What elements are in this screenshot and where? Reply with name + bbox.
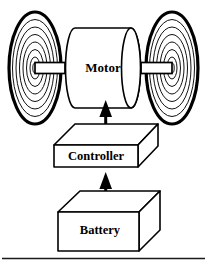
axle-left <box>35 63 65 74</box>
controller-label: Controller <box>68 149 124 163</box>
drivetrain-diagram: Motor Controller <box>0 0 207 264</box>
motor-label: Motor <box>85 60 121 75</box>
arrow-battery-to-controller-head <box>99 172 112 189</box>
motor-end-cap <box>122 28 141 108</box>
battery-label: Battery <box>80 223 121 237</box>
battery-block <box>58 191 160 251</box>
diagram-canvas: Motor Controller <box>0 0 207 264</box>
axle-right <box>141 63 172 74</box>
